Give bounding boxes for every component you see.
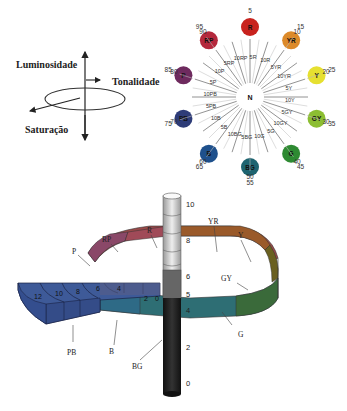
spoke-label: 10G — [254, 133, 264, 139]
intermediate-number: 60 — [199, 158, 207, 165]
value-5: 5 — [186, 290, 190, 299]
value-0: 0 — [186, 379, 190, 388]
wheel-spoke — [252, 40, 259, 83]
chroma-8: 8 — [76, 288, 80, 295]
spoke-label: 10P — [215, 68, 225, 74]
hue-label-bg: BG — [132, 362, 143, 371]
wheel-spoke — [241, 40, 248, 83]
luminosity-label: Luminosidade — [16, 59, 78, 70]
spoke-label: 10GY — [273, 120, 287, 126]
chroma-0: 0 — [155, 295, 159, 302]
ring-yr-segment — [180, 226, 270, 250]
intermediate-number: 80 — [170, 68, 178, 75]
intermediate-number: 20 — [322, 68, 330, 75]
spoke-label: 10BG — [228, 131, 242, 137]
chroma-10: 10 — [55, 290, 63, 297]
spoke-label: 5YR — [271, 64, 282, 70]
intermediate-number: 30 — [322, 118, 330, 125]
hue-code: R — [248, 24, 253, 31]
hue-label-g: G — [238, 330, 244, 339]
spoke-label: 5BG — [241, 134, 252, 140]
hue-label: Tonalidade — [112, 76, 160, 87]
spoke-label: 10YR — [277, 73, 291, 79]
spoke-label: 10B — [211, 115, 221, 121]
spoke-label: 10Y — [285, 97, 295, 103]
hue-label-b: B — [109, 347, 114, 356]
value-6: 6 — [186, 272, 190, 281]
intermediate-number: 10 — [293, 28, 301, 35]
munsell-diagram: Luminosidade Tonalidade Saturação 5R10R5… — [0, 0, 347, 411]
hue-wheel: 5R10R5YR10YR5Y10Y5GY10GY5G10G5BG10BG5B10… — [165, 7, 336, 186]
hue-number: 5 — [248, 7, 252, 14]
hue-label-r: R — [147, 226, 152, 235]
chroma-2: 2 — [144, 295, 148, 302]
hue-label-pb: PB — [67, 348, 76, 357]
value-8: 8 — [186, 236, 190, 245]
hue-number: 55 — [246, 179, 254, 186]
spoke-label: 10R — [260, 57, 270, 63]
munsell-solid: 12 10 8 6 4 2 0 10 8 6 5 4 2 0 — [18, 193, 278, 397]
ring-g-segment — [236, 278, 278, 316]
chroma-6: 6 — [96, 285, 100, 292]
chroma-12: 12 — [34, 293, 42, 300]
intermediate-number: 70 — [170, 118, 178, 125]
intermediate-number: 40 — [293, 158, 301, 165]
spoke-label: 5R — [250, 54, 257, 60]
spoke-label: 5Y — [286, 85, 293, 91]
hue-label-rp: RP — [102, 235, 111, 244]
spoke-label: 5PB — [206, 103, 217, 109]
hue-label-yr: YR — [208, 217, 218, 226]
spoke-label: 10PB — [203, 91, 217, 97]
value-cylinder-dark — [163, 298, 181, 394]
spoke-label: 5G — [267, 128, 274, 134]
hue-label-y: Y — [238, 231, 244, 240]
intermediate-number: 50 — [246, 173, 254, 180]
value-4: 4 — [186, 306, 190, 315]
chroma-4: 4 — [117, 285, 121, 292]
saturation-label: Saturação — [25, 124, 68, 135]
hue-label-p: P — [72, 247, 76, 256]
wheel-spoke — [241, 111, 248, 154]
spoke-label: 10RP — [234, 55, 248, 61]
hue-label-gy: GY — [221, 274, 232, 283]
neutral-label: N — [247, 94, 252, 101]
spoke-label: 5B — [221, 124, 228, 130]
wheel-spoke — [263, 79, 305, 93]
ring-y-segment — [265, 245, 278, 282]
spoke-label: 5P — [210, 79, 217, 85]
value-10: 10 — [186, 200, 194, 209]
intermediate-number: 90 — [199, 28, 207, 35]
hsl-axes-diagram: Luminosidade Tonalidade Saturação — [16, 52, 160, 140]
value-2: 2 — [186, 343, 190, 352]
wheel-spoke — [254, 110, 268, 152]
spoke-label: 5GY — [281, 109, 292, 115]
